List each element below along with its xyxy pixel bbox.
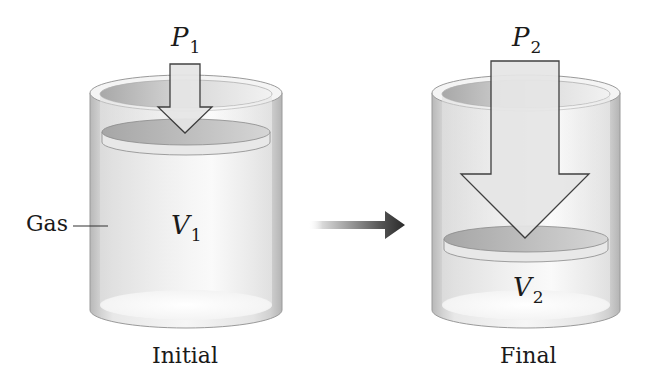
pressure-label-initial: P1	[171, 22, 200, 52]
boyles-law-diagram: P1 V1 Gas Initial P2 V2 Final	[0, 0, 651, 382]
volume-subscript: 1	[191, 225, 202, 245]
pressure-subscript: 1	[190, 37, 201, 57]
pressure-subscript: 2	[531, 37, 542, 57]
volume-label-initial: V1	[171, 210, 202, 240]
pressure-symbol: P	[171, 22, 189, 52]
pressure-symbol: P	[512, 22, 530, 52]
caption-final: Final	[500, 343, 557, 368]
transition-arrow-icon	[308, 211, 405, 239]
volume-symbol: V	[513, 272, 532, 302]
volume-label-final: V2	[513, 272, 544, 302]
volume-symbol: V	[171, 210, 190, 240]
gas-label: Gas	[26, 211, 68, 236]
pressure-label-final: P2	[512, 22, 541, 52]
volume-subscript: 2	[533, 287, 544, 307]
caption-initial: Initial	[152, 343, 218, 368]
